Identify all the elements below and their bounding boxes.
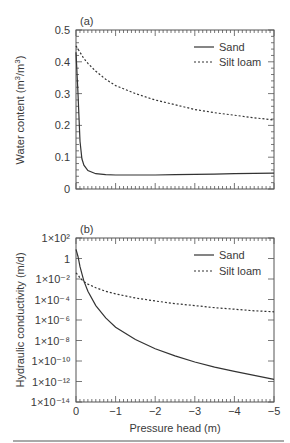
panel-a-sand-line xyxy=(76,52,274,175)
panel-b-label: (b) xyxy=(80,223,93,235)
panel-b-y-axis-title: Hydraulic conductivity (m/d) xyxy=(14,252,26,387)
x-tick-label: −3 xyxy=(189,405,202,417)
panel-b-legend: Sand Silt loam xyxy=(194,249,261,277)
x-tick-label: −2 xyxy=(149,405,162,417)
panel-a-y-tick-labels: 00.10.20.30.40.5 xyxy=(55,24,70,195)
x-tick-label: 0 xyxy=(73,405,79,417)
x-axis-title: Pressure head (m) xyxy=(129,422,220,434)
y-tick-label: 1×10² xyxy=(42,232,71,244)
y-tick-label: 1 xyxy=(64,253,70,265)
x-tick-label: −1 xyxy=(109,405,122,417)
panel-b-y-tick-labels: 1×10⁻¹⁴1×10⁻¹²1×10⁻¹⁰1×10⁻⁸1×10⁻⁶1×10⁻⁴1… xyxy=(31,232,71,408)
legend-silt-loam-label: Silt loam xyxy=(219,56,261,68)
panel-b-silt-loam-line xyxy=(76,273,274,312)
x-tick-label: −5 xyxy=(268,405,281,417)
y-tick-label: 1×10⁻¹² xyxy=(32,376,70,388)
panel-a-label: (a) xyxy=(80,15,93,27)
y-tick-label: 1×10⁻¹⁰ xyxy=(32,355,71,367)
legend-sand-label: Sand xyxy=(219,41,245,53)
x-tick-labels: 0−1−2−3−4−5 xyxy=(73,405,280,417)
y-tick-label: 1×10⁻⁸ xyxy=(35,335,70,347)
x-tick-label: −4 xyxy=(228,405,241,417)
y-tick-label: 0.2 xyxy=(55,119,70,131)
y-tick-label: 0.3 xyxy=(55,88,70,100)
y-tick-label: 0 xyxy=(64,183,70,195)
y-tick-label: 0.1 xyxy=(55,151,70,163)
panel-b-hydraulic-conductivity: (b) 1×10⁻¹⁴1×10⁻¹²1×10⁻¹⁰1×10⁻⁸1×10⁻⁶1×1… xyxy=(14,223,274,408)
y-tick-label: 0.4 xyxy=(55,56,70,68)
y-tick-label: 1×10⁻⁴ xyxy=(34,294,70,306)
panel-a-legend: Sand Silt loam xyxy=(194,41,261,68)
y-tick-label: 1×10⁻² xyxy=(36,273,71,285)
panel-a-y-axis-title: Water content (m3/m3) xyxy=(13,56,26,165)
panel-a-ticks xyxy=(76,30,274,189)
legend-silt-loam-label: Silt loam xyxy=(219,265,261,277)
panel-a-frame xyxy=(76,30,274,189)
y-tick-label: 0.5 xyxy=(55,24,70,36)
panel-b-frame xyxy=(76,238,274,402)
legend-sand-label: Sand xyxy=(219,249,245,261)
panel-a-water-content: (a) 00.10.20.30.40.5 Water content (m3/m… xyxy=(13,15,274,195)
y-tick-label: 1×10⁻⁶ xyxy=(35,314,70,326)
y-tick-label: 1×10⁻¹⁴ xyxy=(31,396,70,408)
panel-b-ticks xyxy=(76,238,274,402)
figure: (a) 00.10.20.30.40.5 Water content (m3/m… xyxy=(0,0,290,443)
